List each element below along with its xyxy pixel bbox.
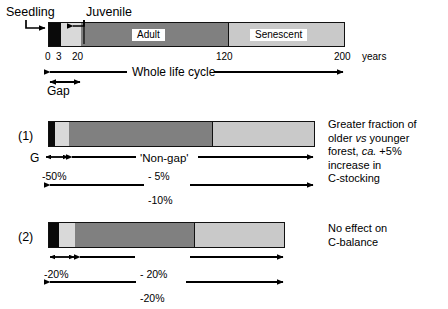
figure-root: Seedling Juvenile Adult Senescent 0 3 20… [0, 0, 448, 309]
scenario-1-total-change: -10% [148, 194, 173, 207]
scenario-1-note-line4: increase in [328, 159, 381, 171]
lifecycle-segment-juvenile [61, 23, 81, 46]
scenario-1-note-line3b: +5% [376, 145, 401, 157]
scenario-2-note-line2: C-balance [328, 236, 378, 248]
gap-span-label: Gap [47, 85, 70, 98]
scenario-1-note-line2-italic: vs [356, 132, 367, 144]
juvenile-callout-label: Juvenile [86, 6, 132, 19]
lifecycle-senescent-label: Senescent [250, 29, 307, 41]
lifecycle-adult-label: Adult [132, 29, 165, 41]
lifecycle-segment-seedling [49, 23, 61, 46]
scenario-2-gap-change: -20% [44, 268, 69, 281]
axis-units-label: years [362, 50, 386, 63]
scenario-1-note-line3a: forest, [328, 145, 362, 157]
axis-tick-20: 20 [72, 50, 83, 63]
scenario-1-segment-adult [69, 122, 212, 146]
scenario-1-segment-juvenile [55, 122, 69, 146]
scenario-1-non-gap-change: - 5% [148, 170, 170, 183]
scenario-1-segment-senescent [212, 122, 314, 146]
scenario-2-segment-senescent [194, 223, 284, 247]
scenario-2-total-change: -20% [140, 292, 165, 305]
axis-tick-3: 3 [56, 50, 62, 63]
scenario-1-note-line1: Greater fraction of [328, 118, 417, 130]
scenario-1-note: Greater fraction of older vs younger for… [328, 118, 448, 186]
whole-life-cycle-label: Whole life cycle [132, 66, 215, 79]
seedling-leader [26, 20, 45, 28]
scenario-2-note-line1: No effect on [328, 222, 387, 234]
scenario-1-note-line3-italic: ca. [362, 145, 377, 157]
axis-tick-0: 0 [45, 50, 51, 63]
scenario-1-gap-change: -50% [42, 170, 67, 183]
scenario-2-segment-adult [75, 223, 194, 247]
scenario-2-note: No effect on C-balance [328, 222, 448, 249]
seedling-callout-label: Seedling [6, 6, 55, 19]
scenario-1-note-line2a: older [328, 132, 356, 144]
scenario-1-note-line2b: younger [367, 132, 410, 144]
axis-tick-200: 200 [334, 50, 351, 63]
scenario-1-non-gap-label: 'Non-gap' [140, 152, 189, 165]
scenario-2-bar [48, 222, 285, 248]
scenario-1-note-line5: C-stocking [328, 172, 380, 184]
scenario-2-segment-juvenile [59, 223, 75, 247]
axis-tick-120: 120 [216, 50, 233, 63]
scenario-1-bar [48, 121, 315, 147]
scenario-2-index: (2) [18, 231, 33, 244]
scenario-2-segment-seedling [49, 223, 59, 247]
scenario-2-non-gap-change: - 20% [140, 268, 167, 281]
scenario-1-index: (1) [18, 130, 33, 143]
scenario-1-gap-letter: G [30, 152, 39, 165]
